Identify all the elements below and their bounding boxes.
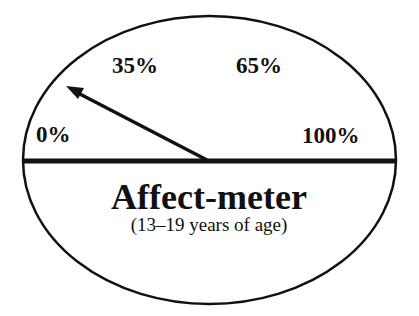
label-0-percent: 0% [36, 122, 71, 147]
label-100-percent: 100% [302, 123, 360, 148]
affect-meter-diagram: 0% 35% 65% 100% Affect-meter (13–19 year… [0, 0, 419, 316]
needle-arrow-icon [66, 86, 207, 160]
title: Affect-meter [111, 177, 307, 217]
label-35-percent: 35% [112, 53, 158, 78]
label-65-percent: 65% [236, 53, 282, 78]
subtitle: (13–19 years of age) [131, 214, 288, 236]
